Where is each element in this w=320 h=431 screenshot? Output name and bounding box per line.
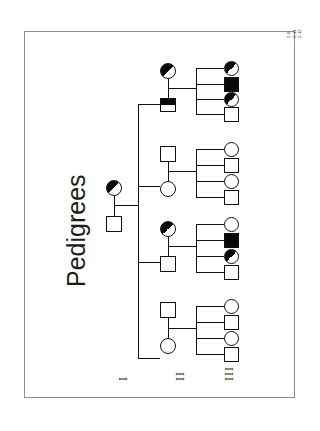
sibship-spine-iii-1 — [196, 68, 197, 114]
individual-III-5-female-unaffected — [224, 142, 239, 157]
individual-III-1-female-carrier — [224, 61, 239, 76]
generation-label-iii: III — [222, 366, 237, 381]
generation-label-ii: II — [173, 371, 188, 381]
sibship-branch-ii-4 — [138, 358, 160, 359]
sibship-spine-iii-2 — [196, 149, 197, 197]
individual-III-8-male-unaffected — [224, 190, 239, 205]
sibship-spine-iii-3 — [196, 224, 197, 272]
sib-branch-iii-3b — [196, 240, 224, 241]
sib-branch-iii-3a — [196, 224, 224, 225]
sib-branch-iii-2d — [196, 197, 224, 198]
slide-canvas: Pedigrees 2-9 2-11 2-12 I II III — [0, 0, 320, 431]
individual-II-4-male-unaffected — [160, 146, 176, 162]
individual-III-14-male-unaffected — [224, 315, 239, 330]
generation-label-i: I — [116, 376, 131, 381]
sib-branch-iii-2c — [196, 181, 224, 182]
sib-branch-iii-2a — [196, 149, 224, 150]
sib-branch-iii-3c — [196, 256, 224, 257]
descent-line-ii-2 — [168, 171, 196, 172]
individual-II-7-female-unaffected — [160, 338, 176, 354]
individual-III-12-male-unaffected — [224, 265, 239, 280]
individual-III-3-female-carrier — [224, 92, 239, 107]
descent-line-ii-4 — [168, 328, 196, 329]
individual-III-15-female-unaffected — [224, 331, 239, 346]
sib-branch-iii-1b — [196, 84, 224, 85]
individual-III-7-female-unaffected — [224, 174, 239, 189]
individual-I-2-male-unaffected — [106, 216, 122, 232]
individual-II-5-male-unaffected — [160, 256, 176, 272]
sib-branch-iii-3d — [196, 272, 224, 273]
individual-II-3-female-unaffected — [160, 181, 176, 197]
sib-branch-iii-1d — [196, 114, 224, 115]
individual-III-11-female-carrier — [224, 249, 239, 264]
descent-line-I — [114, 205, 139, 206]
individual-III-16-male-unaffected — [224, 347, 239, 362]
sib-branch-iii-4d — [196, 354, 224, 355]
sib-branch-iii-4c — [196, 338, 224, 339]
sib-branch-iii-1c — [196, 99, 224, 100]
sib-branch-iii-2b — [196, 165, 224, 166]
sibship-spine-generation-ii — [138, 104, 139, 359]
individual-III-13-female-unaffected — [224, 299, 239, 314]
corner-id-block: 2-9 2-11 2-12 — [286, 29, 303, 38]
corner-id-3: 2-12 — [297, 29, 303, 38]
individual-I-1-female-carrier — [106, 180, 122, 196]
sibship-branch-ii-1 — [138, 104, 160, 105]
individual-III-4-male-unaffected — [224, 107, 239, 122]
individual-II-8-male-unaffected — [160, 302, 176, 318]
sib-branch-iii-4a — [196, 306, 224, 307]
individual-III-9-female-unaffected — [224, 217, 239, 232]
sib-branch-iii-4b — [196, 322, 224, 323]
individual-III-6-male-unaffected — [224, 158, 239, 173]
sibship-branch-ii-2 — [138, 186, 160, 187]
sibship-branch-ii-3 — [138, 262, 160, 263]
descent-line-ii-3 — [168, 246, 196, 247]
individual-II-6-female-carrier — [160, 221, 176, 237]
sib-branch-iii-1a — [196, 68, 224, 69]
individual-II-2-female-carrier — [160, 63, 176, 79]
descent-line-ii-1 — [168, 88, 196, 89]
individual-III-10-male-affected — [224, 233, 239, 248]
individual-III-2-male-affected — [224, 77, 239, 92]
sibship-spine-iii-4 — [196, 306, 197, 354]
individual-II-1-male-carrier — [160, 98, 176, 112]
page-title: Pedigrees — [62, 174, 91, 287]
